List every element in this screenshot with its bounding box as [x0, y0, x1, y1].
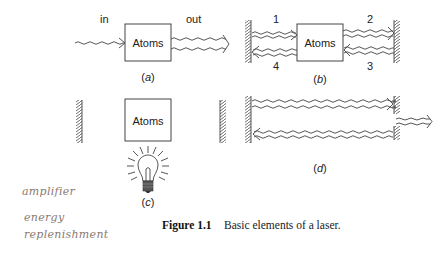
beam-1-wave2 [252, 36, 296, 39]
handwritten-notes: amplifier energy replenishment [22, 185, 109, 241]
beam-3-arrowhead-icon [344, 44, 350, 56]
beam-2-label: 2 [367, 13, 373, 25]
beam-1-label: 1 [273, 13, 279, 25]
left-mirror-icon [76, 100, 82, 143]
panel-d-label: (d) [313, 162, 326, 174]
panel-b-label: (b) [313, 73, 326, 85]
beam-2-wave [343, 30, 393, 33]
light-bulb-icon [127, 146, 169, 193]
laser-elements-figure: in Atoms out (a) Atoms 1 [0, 0, 447, 253]
return-beam-arrowhead-icon [253, 128, 260, 140]
output-arrowhead-icon [223, 35, 229, 53]
beam-3-wave2 [344, 52, 394, 55]
input-arrowhead-icon [119, 38, 125, 48]
beam-3-wave [344, 47, 394, 50]
left-mirror-icon [245, 96, 251, 143]
output-beam-wave-top [171, 38, 226, 41]
caption-text: Basic elements of a laser. [224, 219, 341, 231]
panel-a: in Atoms out (a) [75, 13, 229, 83]
panel-c: Atoms [76, 99, 226, 208]
beam-2-arrowhead-icon [388, 27, 394, 40]
output-label: out [186, 13, 201, 25]
note-replenishment: replenishment [24, 228, 109, 241]
return-beam-wave-bottom [254, 136, 393, 139]
right-mirror-icon [220, 100, 226, 143]
beam-2-wave2 [343, 35, 393, 38]
note-energy: energy [24, 211, 65, 224]
panel-a-label: (a) [141, 71, 154, 83]
beam-4-wave2 [253, 54, 297, 57]
forward-beam-wave-bottom [252, 106, 396, 109]
return-beam-wave-top [254, 131, 393, 134]
panel-b: Atoms 1 4 2 3 (b) [245, 13, 400, 85]
note-amplifier: amplifier [22, 185, 76, 198]
forward-beam-wave-top [252, 100, 396, 103]
figure-caption: Figure 1.1 Basic elements of a laser. [162, 219, 341, 232]
atoms-label: Atoms [304, 37, 336, 49]
beam-4-arrowhead-icon [252, 46, 259, 58]
right-mirror-icon [394, 20, 400, 63]
beam-3-label: 3 [367, 60, 373, 72]
atoms-label: Atoms [132, 115, 164, 127]
laser-output-wave-bottom [396, 123, 430, 125]
input-beam-wave [75, 42, 124, 45]
beam-4-wave [253, 49, 297, 52]
beam-4-label: 4 [273, 60, 279, 72]
input-label: in [100, 13, 109, 25]
panel-c-label: (c) [142, 196, 155, 208]
beam-1-wave [252, 32, 296, 35]
caption-label: Figure 1.1 [162, 219, 212, 232]
left-mirror-icon [245, 20, 251, 63]
output-beam-wave-bottom [171, 48, 226, 51]
atoms-label: Atoms [132, 37, 164, 49]
laser-output-arrowhead-icon [427, 115, 432, 128]
panel-d: (d) [245, 96, 432, 174]
laser-output-wave-top [396, 118, 430, 120]
